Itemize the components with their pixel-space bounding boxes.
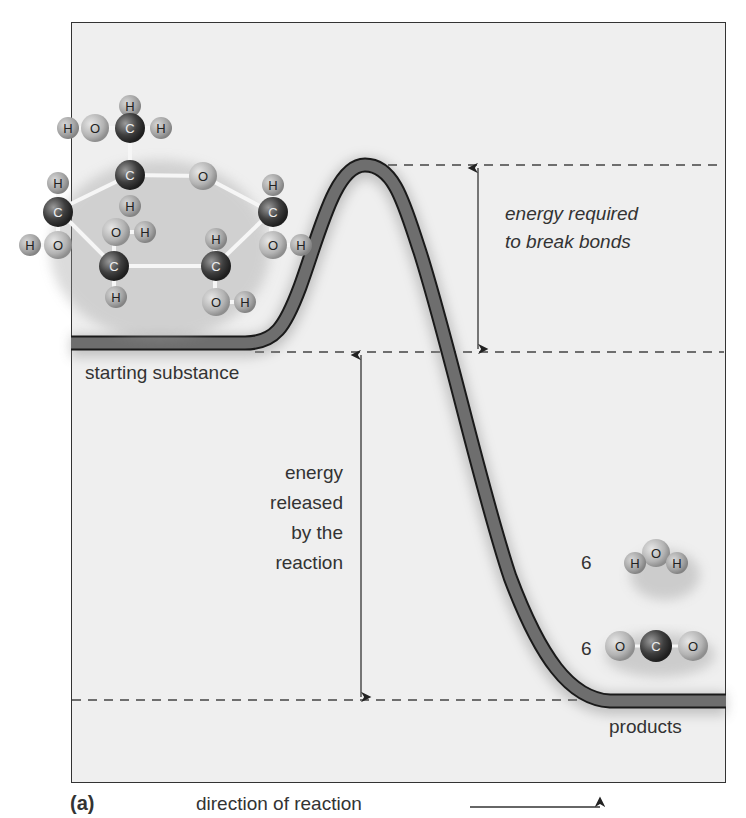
svg-text:C: C <box>109 259 118 274</box>
svg-text:H: H <box>672 556 681 571</box>
svg-text:H: H <box>268 178 277 193</box>
svg-text:H: H <box>63 121 72 136</box>
released-line-3: by the <box>230 518 343 548</box>
svg-text:C: C <box>211 259 220 274</box>
svg-text:O: O <box>198 169 208 184</box>
svg-text:O: O <box>268 238 278 253</box>
released-line-4: reaction <box>230 548 343 578</box>
svg-text:H: H <box>211 232 220 247</box>
svg-text:O: O <box>688 639 698 654</box>
energy-diagram: H H O C H C H O H C O H O H C H H C O H … <box>0 0 746 818</box>
svg-text:O: O <box>111 225 121 240</box>
released-line-2: released <box>230 488 343 518</box>
activation-energy-label: energy required to break bonds <box>505 200 638 256</box>
svg-text:C: C <box>125 121 134 136</box>
svg-text:H: H <box>125 99 134 114</box>
svg-text:H: H <box>111 290 120 305</box>
svg-text:C: C <box>268 205 277 220</box>
water-coefficient: 6 <box>581 552 592 574</box>
svg-text:H: H <box>53 176 62 191</box>
svg-text:O: O <box>615 639 625 654</box>
products-label: products <box>609 716 682 738</box>
energy-released-label: energy released by the reaction <box>230 458 343 578</box>
svg-text:H: H <box>25 238 34 253</box>
svg-text:O: O <box>211 295 221 310</box>
svg-text:H: H <box>156 121 165 136</box>
svg-text:C: C <box>651 639 660 654</box>
svg-text:H: H <box>125 199 134 214</box>
svg-text:O: O <box>651 546 661 561</box>
released-line-1: energy <box>230 458 343 488</box>
svg-text:H: H <box>630 556 639 571</box>
carbon-dioxide-molecule: O C O <box>605 630 715 677</box>
svg-text:C: C <box>53 205 62 220</box>
svg-text:H: H <box>296 238 305 253</box>
svg-text:H: H <box>240 295 249 310</box>
svg-text:O: O <box>53 238 63 253</box>
activation-line-2: to break bonds <box>505 228 638 256</box>
starting-substance-label: starting substance <box>85 362 239 384</box>
water-molecule: O H H <box>624 539 700 600</box>
svg-text:H: H <box>140 225 149 240</box>
activation-line-1: energy required <box>505 200 638 228</box>
glucose-molecule: H H O C H C H O H C O H O H C H H C O H … <box>19 95 312 340</box>
x-axis-label: direction of reaction <box>196 793 362 815</box>
co2-coefficient: 6 <box>581 638 592 660</box>
svg-text:C: C <box>125 168 134 183</box>
figure-part-label: (a) <box>70 792 94 815</box>
svg-text:O: O <box>90 121 100 136</box>
